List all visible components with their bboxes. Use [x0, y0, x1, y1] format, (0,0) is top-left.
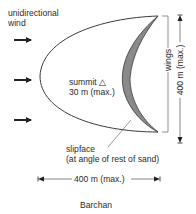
wings-label: wings: [163, 49, 173, 71]
wind-label-line2: wind: [8, 18, 59, 28]
summit-label-line1: summit: [69, 77, 97, 87]
wind-label-line1: unidirectional: [8, 8, 59, 18]
slipface-label-line2: (at angle of rest of sand): [66, 154, 159, 164]
summit-label: summit △ 30 m (max.): [69, 77, 115, 97]
slipface-label: slipface (at angle of rest of sand): [66, 144, 159, 164]
slipface-leader-line: [108, 120, 131, 147]
diagram-title: Barchan: [80, 200, 112, 210]
width-dimension-label: 400 m (max.): [74, 174, 125, 184]
wind-label: unidirectional wind: [8, 8, 59, 28]
summit-triangle-icon: △: [99, 77, 106, 87]
slipface-label-line1: slipface: [66, 144, 159, 154]
wings-bracket: [162, 16, 168, 132]
summit-height-label: 30 m (max.): [69, 87, 115, 97]
slipface-shape: [122, 16, 158, 132]
wind-arrows: [14, 40, 31, 120]
height-dimension-label: 400 m (max.): [175, 45, 185, 96]
